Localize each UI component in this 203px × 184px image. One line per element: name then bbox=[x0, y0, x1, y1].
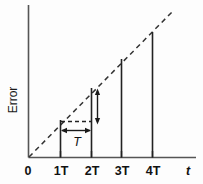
x-tick-label-1t: 1T bbox=[54, 164, 69, 178]
y-axis-label: Error bbox=[6, 87, 20, 114]
x-tick-label-3t: 3T bbox=[115, 164, 130, 178]
x-tick-label-4t: 4T bbox=[146, 164, 161, 178]
x-tick-label-2t: 2T bbox=[85, 164, 100, 178]
origin-tick-label: 0 bbox=[25, 164, 32, 178]
error-vs-time-figure: Error 0 1T 2T 3T 4T t T bbox=[0, 0, 203, 184]
